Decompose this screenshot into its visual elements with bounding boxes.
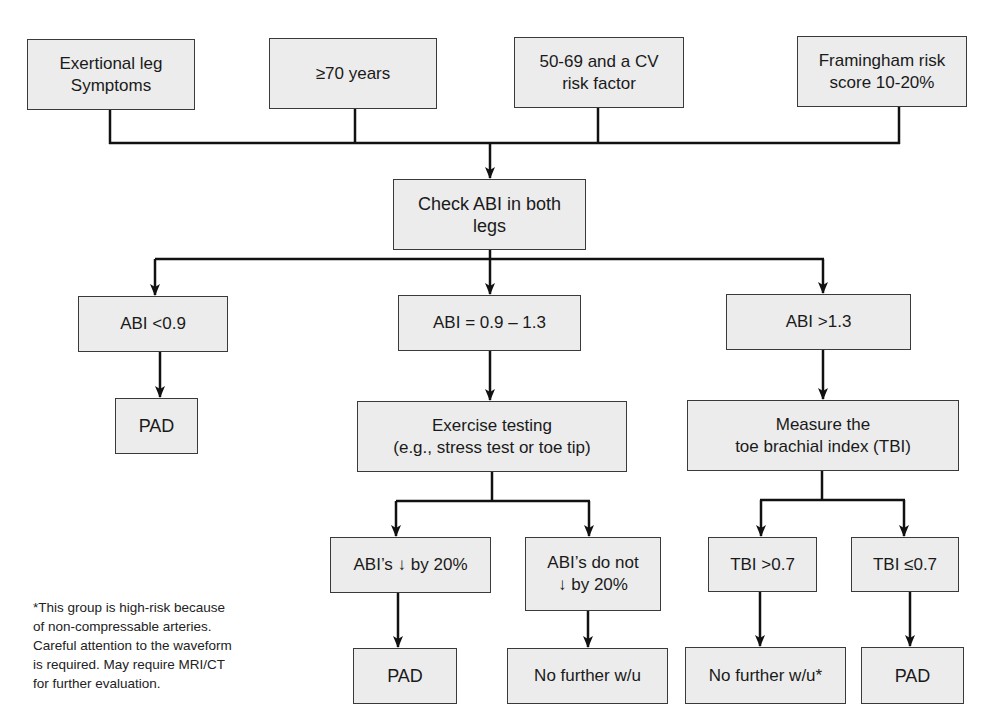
criterion-age-70-plus: ≥70 years bbox=[269, 38, 437, 109]
pad-result-tbi: PAD bbox=[861, 647, 964, 704]
tbi-at-or-below-07-box: TBI ≤0.7 bbox=[851, 537, 959, 592]
pad-result-low: PAD bbox=[115, 398, 198, 454]
abi-drop-20-box: ABI’s ↓ by 20% bbox=[330, 537, 491, 593]
tbi-above-07-box: TBI >0.7 bbox=[708, 537, 817, 592]
measure-tbi-box: Measure the toe brachial index (TBI) bbox=[687, 400, 959, 471]
criterion-exertional-leg-symptoms: Exertional leg Symptoms bbox=[27, 39, 195, 110]
footnote: *This group is high-risk because of non-… bbox=[33, 598, 293, 693]
no-further-workup-exercise: No further w/u bbox=[507, 648, 668, 704]
criterion-age-50-69-cv-risk: 50-69 and a CV risk factor bbox=[514, 37, 684, 108]
abi-high-box: ABI >1.3 bbox=[726, 294, 911, 350]
no-further-workup-tbi: No further w/u* bbox=[685, 647, 846, 704]
pad-result-exercise: PAD bbox=[353, 648, 457, 704]
abi-no-drop-box: ABI’s do not ↓ by 20% bbox=[525, 537, 661, 611]
abi-low-box: ABI <0.9 bbox=[78, 296, 228, 352]
exercise-testing-box: Exercise testing (e.g., stress test or t… bbox=[357, 401, 627, 472]
check-abi-box: Check ABI in both legs bbox=[393, 179, 586, 250]
criterion-framingham-score: Framingham risk score 10-20% bbox=[797, 36, 967, 107]
abi-normal-box: ABI = 0.9 – 1.3 bbox=[398, 295, 581, 351]
